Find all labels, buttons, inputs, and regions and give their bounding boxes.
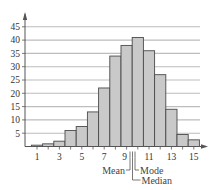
histogram-bar	[166, 109, 177, 146]
y-tick-label: 45	[11, 22, 21, 32]
mean-median-mode-annotations: MeanMedianMode	[102, 152, 172, 186]
histogram-bar	[87, 112, 98, 147]
y-tick-label: 35	[11, 49, 21, 59]
histogram-bar	[121, 45, 132, 146]
x-axis-ticks: 13579111315	[35, 147, 199, 162]
y-tick-label: 20	[11, 89, 21, 99]
mode-label: Mode	[140, 165, 164, 176]
x-tick-label: 5	[79, 152, 84, 162]
histogram-bar	[54, 141, 65, 146]
y-tick-label: 10	[11, 115, 21, 125]
x-tick-label: 13	[167, 152, 177, 162]
histogram-bar	[143, 51, 154, 147]
y-tick-label: 40	[11, 35, 21, 45]
histogram-chart: 51015202530354045 13579111315 MeanMedian…	[0, 0, 210, 190]
y-tick-label: 30	[11, 62, 21, 72]
histogram-bar	[76, 127, 87, 147]
histogram-bar	[65, 131, 76, 147]
x-tick-label: 3	[57, 152, 62, 162]
y-tick-label: 25	[11, 75, 21, 85]
histogram-bar	[155, 75, 166, 147]
median-label: Median	[142, 175, 173, 186]
x-tick-label: 9	[122, 152, 127, 162]
y-axis-ticks: 51015202530354045	[11, 22, 26, 138]
mean-label: Mean	[102, 165, 125, 176]
x-tick-label: 1	[35, 152, 40, 162]
histogram-bar	[188, 140, 199, 147]
histogram-bar	[132, 37, 143, 146]
x-axis-arrow-icon	[201, 144, 208, 148]
x-tick-label: 7	[102, 152, 107, 162]
y-tick-label: 5	[15, 129, 20, 139]
histogram-bar	[99, 88, 110, 147]
histogram-bar	[177, 135, 188, 147]
mode-leader-line	[135, 158, 139, 171]
histogram-bar	[110, 56, 121, 146]
y-tick-label: 15	[11, 102, 21, 112]
x-tick-label: 11	[144, 152, 153, 162]
x-tick-label: 15	[189, 152, 199, 162]
y-axis-arrow-icon	[23, 12, 27, 20]
